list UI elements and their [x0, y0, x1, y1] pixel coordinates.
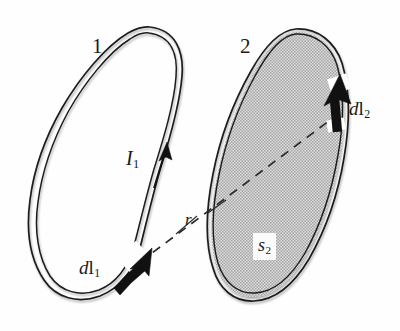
distance-r-label: r [185, 211, 192, 228]
dl-2-l-symbol: l [359, 98, 364, 119]
loop-1-inner-wall [37, 33, 177, 293]
figure-canvas [0, 0, 400, 331]
current-arrow-1 [154, 142, 172, 188]
surface-2-label: s2 [253, 233, 276, 260]
dl-2-subscript: 2 [364, 108, 370, 121]
dl-1-label: dl1 [79, 258, 100, 280]
current-1-label: I1 [126, 148, 139, 171]
dl-2-label: dl2 [349, 99, 370, 121]
surface-2-symbol: s [258, 235, 265, 255]
surface-2-subscript: 2 [265, 244, 271, 256]
dl-1-l-symbol: l [89, 257, 94, 278]
current-1-subscript: 1 [133, 157, 139, 171]
distance-r-symbol: r [185, 210, 192, 229]
loop-1-contour [29, 27, 183, 300]
loop-1-outer-wall [29, 27, 183, 300]
loop-2-surface-fill [211, 32, 344, 297]
loop-2-contour [207, 29, 348, 301]
dl-1-d-symbol: d [79, 257, 89, 278]
physics-figure: 1 2 I1 dl1 dl2 r s2 [0, 0, 400, 331]
loop-2-label: 2 [240, 36, 251, 57]
current-1-symbol: I [126, 147, 133, 169]
loop-1-label: 1 [92, 36, 103, 57]
dl-1-subscript: 1 [94, 267, 100, 280]
dl-2-d-symbol: d [349, 98, 359, 119]
